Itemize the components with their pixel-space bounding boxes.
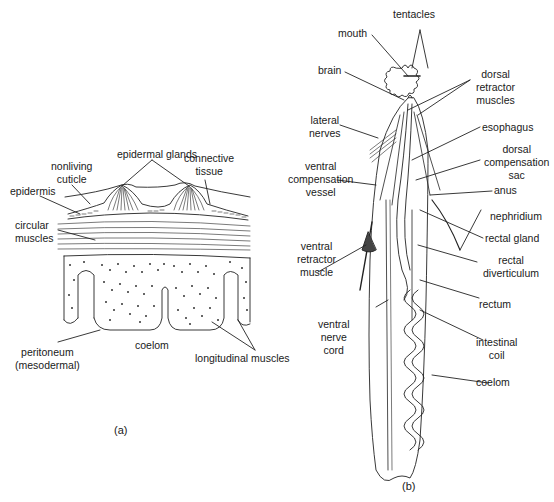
caption-b: (b)	[402, 480, 415, 492]
label-intestinal-coil: intestinal coil	[476, 336, 517, 362]
sipunculan-body	[318, 30, 492, 481]
label-dorsal-retractor-muscles: dorsal retractor muscles	[476, 68, 515, 107]
stipple-dots	[68, 261, 248, 325]
label-lateral-nerves: lateral nerves	[309, 114, 341, 140]
label-esophagus: esophagus	[482, 121, 533, 134]
label-nephridium: nephridium	[490, 210, 542, 223]
label-longitudinal-muscles: longitudinal muscles	[195, 352, 290, 365]
label-brain: brain	[318, 64, 341, 77]
label-ventral-nerve-cord: ventral nerve cord	[318, 318, 350, 357]
label-ventral-retractor-muscle: ventral retractor muscle	[297, 240, 336, 279]
label-connective-tissue: connective tissue	[184, 152, 234, 178]
label-circular-muscles: circular muscles	[15, 219, 54, 245]
label-rectal-diverticulum: rectal diverticulum	[483, 254, 539, 280]
diagram-artwork	[0, 0, 554, 502]
label-rectum: rectum	[479, 298, 511, 311]
label-tentacles: tentacles	[393, 8, 435, 21]
caption-a: (a)	[114, 424, 127, 436]
label-coelom-a: coelom	[135, 339, 169, 352]
label-rectal-gland: rectal gland	[485, 232, 539, 245]
body-wall-section	[40, 160, 255, 350]
label-epidermis: epidermis	[10, 185, 56, 198]
label-mouth: mouth	[338, 27, 367, 40]
label-anus: anus	[494, 184, 517, 197]
label-nonliving-cuticle: nonliving cuticle	[51, 160, 92, 186]
label-peritoneum: peritoneum (mesodermal)	[15, 346, 80, 372]
label-coelom-b: coelom	[476, 376, 510, 389]
label-ventral-compensation-vessel: ventral compensation vessel	[288, 160, 353, 199]
label-dorsal-compensation-sac: dorsal compensation sac	[484, 143, 549, 182]
